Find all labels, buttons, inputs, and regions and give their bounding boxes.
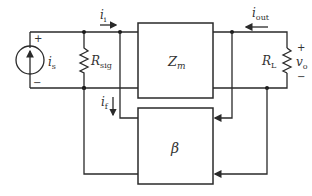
node [82,30,86,34]
source-plus: + [34,33,42,44]
source-resistor [80,32,88,88]
output-current-label: iout [252,6,270,22]
current-source [16,46,44,74]
output-voltage-label: vo [296,55,308,71]
circuit-diagram: + − is Rsig ii if Zm β RL + vo − iout [0,0,312,196]
feedback-block-label: β [170,140,179,156]
output-plus: + [297,42,305,53]
feedback-current-label: if [101,95,109,111]
feedback-sense-wire-bottom [215,88,267,174]
output-minus: − [297,71,305,82]
load-resistor [283,48,291,73]
load-resistor-label: RL [261,54,277,70]
output-top-wire [213,32,287,48]
source-minus: − [33,77,41,88]
source-resistor-label: Rsig [90,54,112,70]
source-label: is [48,55,56,71]
feedback-input-wire-bottom [84,88,138,174]
input-current-label: ii [100,8,107,24]
output-bottom-wire [213,73,287,88]
feedback-input-wire-top [120,32,138,118]
feedback-sense-wire-top [215,32,232,118]
